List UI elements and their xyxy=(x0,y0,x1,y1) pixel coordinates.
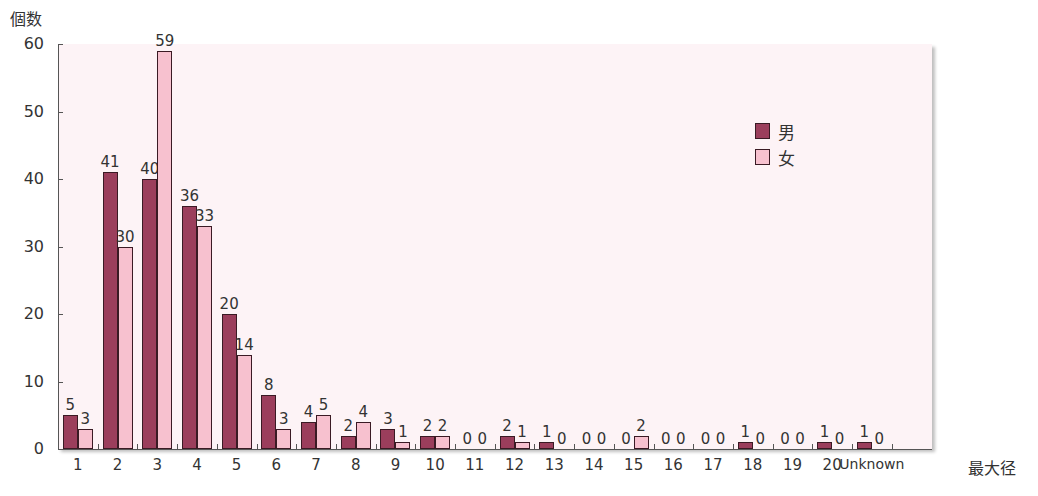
bar-male xyxy=(341,436,356,450)
x-tick xyxy=(177,444,178,449)
y-tick-label: 0 xyxy=(4,439,44,458)
legend-label: 男 xyxy=(778,119,795,144)
y-tick xyxy=(58,247,63,248)
bar-male xyxy=(301,422,316,449)
value-label: 20 xyxy=(214,295,244,313)
value-label: 8 xyxy=(254,376,284,394)
value-label: 36 xyxy=(174,187,204,205)
x-tick xyxy=(137,444,138,449)
x-tick xyxy=(58,444,59,449)
value-label: 5 xyxy=(309,396,339,414)
legend-item-female: 女 xyxy=(755,144,795,170)
bar-male xyxy=(142,179,157,449)
y-tick xyxy=(58,449,63,450)
bar-female xyxy=(316,415,331,449)
x-tick xyxy=(376,444,377,449)
value-label: 30 xyxy=(110,228,140,246)
x-tick xyxy=(296,444,297,449)
bar-female xyxy=(276,429,291,449)
bar-male xyxy=(420,436,435,450)
y-tick xyxy=(58,112,63,113)
x-axis-title: 最大径 xyxy=(968,455,1016,479)
bar-female xyxy=(78,429,93,449)
x-axis-line xyxy=(58,449,932,450)
x-tick xyxy=(217,444,218,449)
legend-item-male: 男 xyxy=(755,118,795,144)
y-tick xyxy=(58,179,63,180)
bar-female xyxy=(634,436,649,450)
bar-female xyxy=(157,51,172,449)
value-label: 41 xyxy=(95,153,125,171)
legend-swatch xyxy=(755,123,770,139)
y-tick xyxy=(58,382,63,383)
value-label: 59 xyxy=(150,32,180,50)
x-tick xyxy=(534,444,535,449)
legend: 男女 xyxy=(755,118,795,170)
bar-chart: 個数 0102030405060 12345678910111213141516… xyxy=(0,0,1038,496)
y-tick-label: 60 xyxy=(4,34,44,53)
value-label: 33 xyxy=(189,207,219,225)
x-tick xyxy=(257,444,258,449)
legend-label: 女 xyxy=(778,145,795,170)
bar-female xyxy=(118,247,133,450)
bar-female xyxy=(197,226,212,449)
y-tick xyxy=(58,314,63,315)
y-tick-label: 20 xyxy=(4,304,44,323)
bar-female xyxy=(435,436,450,450)
y-tick-label: 50 xyxy=(4,102,44,121)
bar-male xyxy=(222,314,237,449)
y-tick xyxy=(58,44,63,45)
bar-male xyxy=(182,206,197,449)
y-axis-title: 個数 xyxy=(10,6,42,30)
bar-female xyxy=(395,442,410,449)
bar-male xyxy=(103,172,118,449)
value-label: 3 xyxy=(70,410,100,428)
x-tick xyxy=(415,444,416,449)
y-tick-label: 40 xyxy=(4,169,44,188)
x-tick-label: Unknown xyxy=(832,456,912,472)
legend-swatch xyxy=(755,149,770,165)
y-tick-label: 30 xyxy=(4,237,44,256)
value-label: 14 xyxy=(229,336,259,354)
y-tick-label: 10 xyxy=(4,372,44,391)
x-tick xyxy=(336,444,337,449)
bar-female xyxy=(515,442,530,449)
bar-female xyxy=(237,355,252,450)
bar-female xyxy=(356,422,371,449)
x-tick xyxy=(98,444,99,449)
value-label: 0 xyxy=(864,430,894,448)
